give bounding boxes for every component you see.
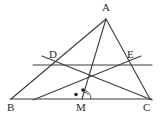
vertex-label-c: C <box>143 102 150 113</box>
angle-arc-inner-icon <box>84 92 88 94</box>
line-cevian-am <box>82 19 106 99</box>
angle-arc-amc-icon <box>84 90 91 99</box>
vertex-label-b: B <box>7 102 14 113</box>
geometry-figure: A B C D E M <box>0 0 161 123</box>
vertex-label-m: M <box>76 102 86 113</box>
line-segment-dc <box>42 56 152 100</box>
vertex-label-a: A <box>102 2 110 13</box>
vertex-label-d: D <box>49 49 57 60</box>
dot-above-m-icon <box>81 88 85 92</box>
dot-left-of-m-icon <box>74 93 78 97</box>
line-side-ab <box>11 19 106 99</box>
vertex-label-e: E <box>127 49 134 60</box>
